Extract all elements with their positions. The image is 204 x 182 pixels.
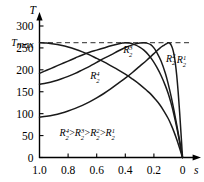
y-tick-label: 0 [28,152,34,164]
x-tick-label: 1.0 [32,164,47,176]
x-tick-label: 0.8 [61,164,76,176]
y-tick-label: 200 [16,64,34,76]
y-tick-label: 300 [16,20,34,32]
tmax-label: Tmax [11,37,34,50]
y-tick-label: 150 [16,86,34,98]
x-tick-label: 0 [180,164,186,176]
x-axis-arrow [193,154,201,160]
x-axis-label: s [194,164,199,176]
chart-svg: 0501001502002503001.00.80.60.40.20TsTmax… [0,0,204,182]
y-axis-arrow [36,12,42,20]
x-tick-label: 0.6 [90,164,105,176]
y-tick-label: 50 [22,130,34,142]
x-tick-label: 0.4 [118,164,133,176]
x-tick-label: 0.2 [147,164,162,176]
y-axis-label: T [30,4,38,16]
curve-label-R2_1: R12 [176,54,187,68]
legend-inequality: R42>R32>R22>R12 [59,127,116,141]
curve-label-R2_4: R42 [89,70,100,84]
y-tick-label: 100 [16,108,34,120]
figure-container: 0501001502002503001.00.80.60.40.20TsTmax… [0,0,204,182]
curve-label-R2_3: R32 [122,44,133,58]
curve-label-R2_2: R22 [165,52,176,66]
